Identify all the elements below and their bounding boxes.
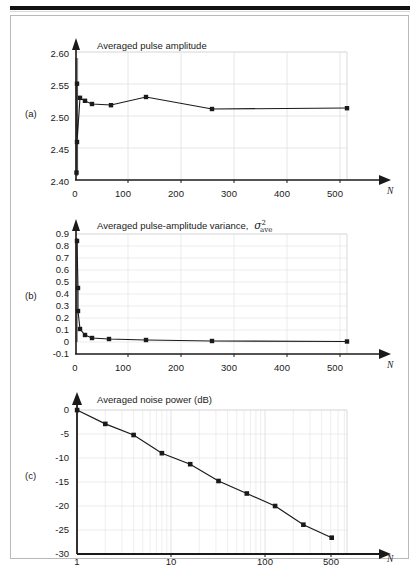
figure-frame: (a) Averaged pulse amplitude 2.60 2.55 2… xyxy=(10,15,409,559)
panel-b: (b) Averaged pulse-amplitude variance, σ… xyxy=(11,204,410,376)
panel-b-gridlines xyxy=(75,234,347,354)
panel-b-xaxis xyxy=(75,349,391,359)
top-rule-thin-decoration xyxy=(10,11,410,12)
panel-b-series-line xyxy=(77,241,347,342)
panel-b-series-markers xyxy=(75,239,349,344)
panel-a-plot xyxy=(11,20,410,200)
panel-a-series-markers xyxy=(74,82,349,175)
panel-c-major-gridlines xyxy=(77,410,347,554)
panel-c-plot xyxy=(11,374,410,560)
top-rule-decoration xyxy=(10,6,410,10)
panel-c: (c) Averaged noise power (dB) 0 -5 -10 -… xyxy=(11,374,410,560)
panel-c-xaxis xyxy=(77,549,391,559)
panel-a-xaxis xyxy=(75,175,391,185)
figure-page: (a) Averaged pulse amplitude 2.60 2.55 2… xyxy=(0,0,420,567)
panel-a: (a) Averaged pulse amplitude 2.60 2.55 2… xyxy=(11,20,410,200)
panel-b-plot xyxy=(11,204,410,376)
panel-a-series-line xyxy=(77,84,347,173)
panel-a-gridlines xyxy=(75,52,347,180)
